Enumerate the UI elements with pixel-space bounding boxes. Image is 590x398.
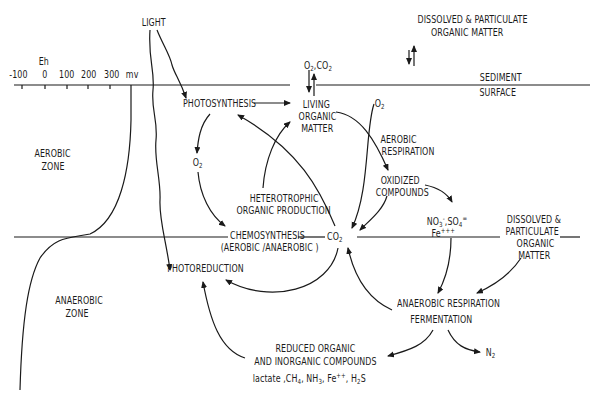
o2-top-label: O2 [375, 98, 385, 113]
aerobic-zone-line2: ZONE [42, 161, 65, 173]
axis-tick-300: 300 [104, 69, 119, 81]
axis-tick-0: 0 [42, 69, 47, 81]
aerobic-zone-line1: AEROBIC [34, 148, 70, 160]
reduced-compounds-line1: REDUCED ORGANIC [275, 343, 355, 355]
aerobic-respiration-line1: AEROBIC [380, 134, 416, 146]
fermentation-label: FERMENTATION [410, 314, 472, 326]
anaerobic-zone-line1: ANAEROBIC [55, 295, 103, 307]
axis-unit: mv [126, 69, 139, 81]
sediment-label: SEDIMENT [480, 72, 522, 84]
chemosynthesis-line2: (AEROBIC /ANAEROBIC ) [221, 242, 319, 254]
living-organic-matter-line2: ORGANIC [299, 111, 337, 123]
o2-co2-exchange-label: O2,CO2 [304, 60, 332, 75]
ferric-iron-label: Fe+++ [432, 225, 455, 240]
oxidized-compounds-line1: OXIDIZED [381, 175, 420, 187]
chemosynthesis-line1: CHEMOSYNTHESIS [230, 230, 305, 242]
axis-tick-200: 200 [81, 69, 96, 81]
dissolved-right-line1: DISSOLVED & [507, 214, 561, 226]
sediment-redox-cycle-diagram: Eh -100 0 100 200 300 mv SEDIMENT SURFAC… [0, 0, 590, 398]
dissolved-top-line2: ORGANIC MATTER [431, 27, 503, 39]
aerobic-respiration-line2: RESPIRATION [382, 146, 435, 158]
dissolved-right-line2: PARTICULATE [506, 226, 559, 238]
o2-left-label: O2 [193, 157, 203, 172]
oxidized-compounds-line2: COMPOUNDS [376, 187, 429, 199]
dissolved-right-line3: ORGANIC [517, 238, 555, 250]
reduced-compounds-line2: AND INORGANIC COMPOUNDS [254, 356, 376, 368]
axis-tick-minus100: -100 [9, 69, 27, 81]
photosynthesis-label: PHOTOSYNTHESIS [183, 98, 256, 110]
living-organic-matter-line3: MATTER [301, 123, 333, 135]
co2-label: CO2 [327, 231, 343, 246]
n2-label: N2 [486, 347, 496, 362]
light-label: LIGHT [142, 17, 166, 29]
axis-tick-100: 100 [59, 69, 74, 81]
dissolved-top-line1: DISSOLVED & PARTICULATE [418, 14, 528, 26]
living-organic-matter-line1: LIVING [303, 99, 330, 111]
dissolved-right-line4: MATTER [518, 250, 550, 262]
anaerobic-respiration-label: ANAEROBIC RESPIRATION [397, 298, 500, 310]
heterotrophic-line1: HETEROTROPHIC [250, 193, 319, 205]
surface-label: SURFACE [479, 87, 515, 99]
eh-axis-label: Eh [39, 56, 49, 68]
photoreduction-label: PHOTOREDUCTION [167, 263, 244, 275]
anaerobic-zone-line2: ZONE [66, 308, 89, 320]
heterotrophic-line2: ORGANIC PRODUCTION [236, 205, 330, 217]
reduced-compounds-line3: lactate ,CH4, NH3, Fe++, H2S [253, 370, 366, 388]
